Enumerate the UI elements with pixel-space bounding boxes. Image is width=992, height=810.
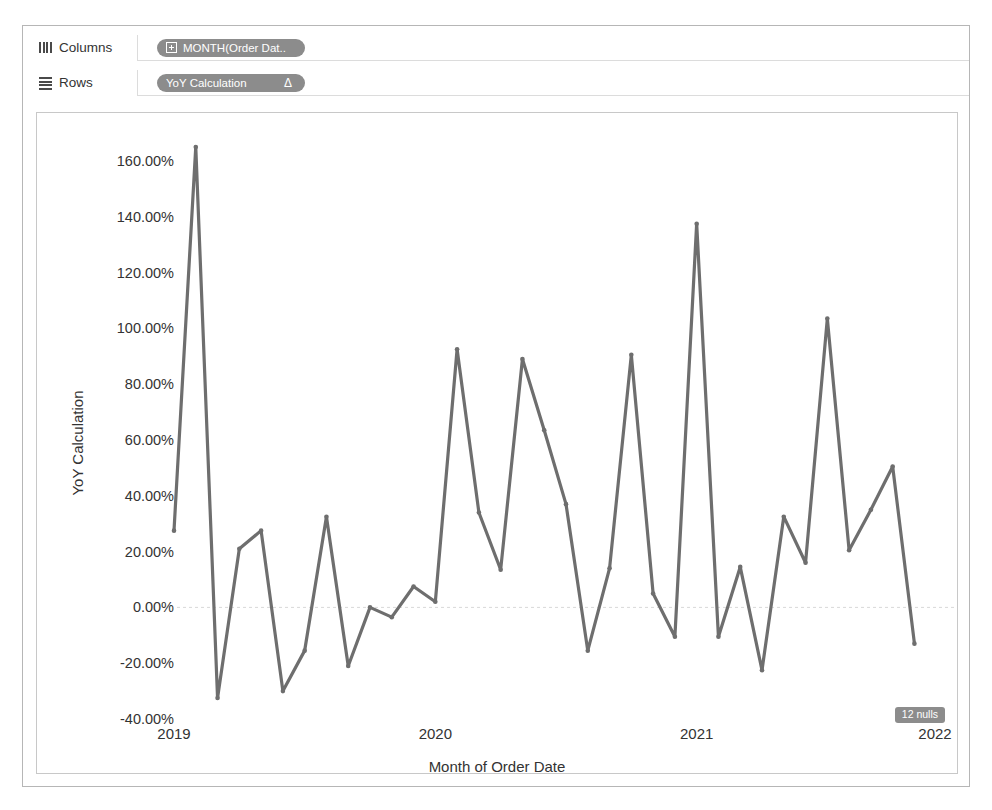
data-point-marker[interactable]: [564, 502, 569, 507]
chart-panel[interactable]: YoY Calculation 160.00%140.00%120.00%100…: [36, 112, 958, 774]
data-point-marker[interactable]: [542, 428, 547, 433]
data-point-marker[interactable]: [760, 668, 765, 673]
pill-yoy-calculation-label: YoY Calculation: [166, 77, 247, 89]
data-point-marker[interactable]: [259, 528, 264, 533]
data-point-marker[interactable]: [455, 347, 460, 352]
columns-label-text: Columns: [59, 40, 112, 55]
pill-month-order-date[interactable]: MONTH(Order Dat..: [157, 39, 305, 57]
rows-shelf[interactable]: Rows YoY Calculation Δ: [23, 70, 969, 96]
data-point-marker[interactable]: [673, 634, 678, 639]
data-point-marker[interactable]: [172, 528, 177, 533]
data-point-marker[interactable]: [912, 641, 917, 646]
series-line-yoy-calculation[interactable]: [174, 147, 914, 698]
data-point-marker[interactable]: [411, 584, 416, 589]
data-point-marker[interactable]: [368, 605, 373, 610]
data-point-marker[interactable]: [607, 566, 612, 571]
data-point-marker[interactable]: [847, 548, 852, 553]
nulls-indicator-badge[interactable]: 12 nulls: [895, 707, 945, 723]
data-point-marker[interactable]: [520, 357, 525, 362]
data-point-marker[interactable]: [781, 514, 786, 519]
data-point-marker[interactable]: [585, 648, 590, 653]
delta-icon: Δ: [284, 76, 296, 90]
rows-shelf-label: Rows: [23, 70, 138, 96]
pill-month-order-date-label: MONTH(Order Dat..: [183, 42, 286, 54]
x-axis-tick-label: 2022: [918, 725, 951, 742]
data-point-marker[interactable]: [803, 560, 808, 565]
data-point-marker[interactable]: [629, 353, 634, 358]
visualization-window: Columns MONTH(Order Dat.. Rows YoY Calcu…: [22, 25, 970, 787]
plus-box-icon[interactable]: [166, 42, 177, 53]
data-point-marker[interactable]: [651, 591, 656, 596]
data-point-marker[interactable]: [281, 689, 286, 694]
columns-shelf[interactable]: Columns MONTH(Order Dat..: [23, 35, 969, 61]
data-point-marker[interactable]: [346, 664, 351, 669]
data-point-marker[interactable]: [869, 507, 874, 512]
x-axis-title: Month of Order Date: [37, 758, 957, 775]
data-point-marker[interactable]: [738, 565, 743, 570]
columns-icon: [39, 42, 52, 53]
data-point-marker[interactable]: [237, 546, 242, 551]
data-point-marker[interactable]: [825, 316, 830, 321]
x-axis-tick-label: 2020: [419, 725, 452, 742]
rows-icon: [39, 77, 52, 88]
columns-shelf-label: Columns: [23, 35, 138, 61]
data-point-marker[interactable]: [716, 634, 721, 639]
pill-yoy-calculation[interactable]: YoY Calculation Δ: [157, 74, 305, 92]
data-point-marker[interactable]: [694, 221, 699, 226]
data-point-marker[interactable]: [389, 615, 394, 620]
data-point-marker[interactable]: [498, 567, 503, 572]
data-point-marker[interactable]: [302, 648, 307, 653]
data-point-marker[interactable]: [193, 145, 198, 150]
x-axis-tick-label: 2019: [157, 725, 190, 742]
rows-shelf-dropzone[interactable]: YoY Calculation Δ: [138, 70, 969, 96]
line-chart-plot[interactable]: [37, 113, 959, 775]
data-point-marker[interactable]: [890, 464, 895, 469]
data-point-marker[interactable]: [324, 514, 329, 519]
data-point-marker[interactable]: [477, 510, 482, 515]
data-point-marker[interactable]: [433, 600, 438, 605]
data-point-marker[interactable]: [215, 696, 220, 701]
x-axis-tick-label: 2021: [680, 725, 713, 742]
rows-label-text: Rows: [59, 75, 93, 90]
x-axis-tick-labels: 2019202020212022: [37, 725, 957, 749]
columns-shelf-dropzone[interactable]: MONTH(Order Dat..: [138, 35, 969, 61]
